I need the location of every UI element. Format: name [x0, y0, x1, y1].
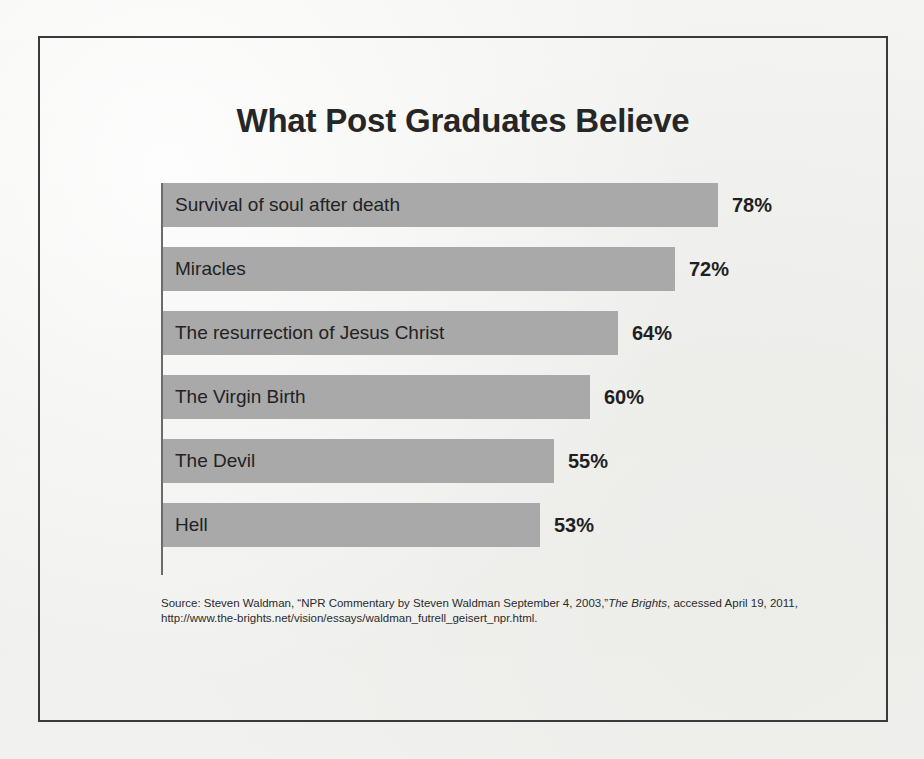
bar-value-label: 64% — [632, 311, 672, 355]
source-publication-title: The Brights — [608, 597, 667, 609]
bar-row: The Devil55% — [163, 439, 803, 483]
bar-value-label: 72% — [689, 247, 729, 291]
bar-category-label: Survival of soul after death — [175, 183, 400, 227]
slide-frame: What Post Graduates Believe Survival of … — [38, 36, 888, 722]
bar-category-label: Hell — [175, 503, 208, 547]
bar-row: Survival of soul after death78% — [163, 183, 803, 227]
bar-category-label: The resurrection of Jesus Christ — [175, 311, 444, 355]
source-line1-pre: Source: Steven Waldman, “NPR Commentary … — [161, 597, 608, 609]
page-title: What Post Graduates Believe — [40, 102, 886, 140]
bar-category-label: Miracles — [175, 247, 246, 291]
source-citation: Source: Steven Waldman, “NPR Commentary … — [161, 596, 821, 626]
bar-category-label: The Virgin Birth — [175, 375, 306, 419]
bar-value-label: 55% — [568, 439, 608, 483]
bar-row: The resurrection of Jesus Christ64% — [163, 311, 803, 355]
bar-rect — [163, 503, 540, 547]
bar-row: Miracles72% — [163, 247, 803, 291]
source-line1-post: , — [667, 597, 670, 609]
bar-chart: Survival of soul after death78%Miracles7… — [161, 183, 801, 575]
bar-row: The Virgin Birth60% — [163, 375, 803, 419]
bar-value-label: 60% — [604, 375, 644, 419]
bar-value-label: 53% — [554, 503, 594, 547]
bar-value-label: 78% — [732, 183, 772, 227]
bar-category-label: The Devil — [175, 439, 255, 483]
bar-row: Hell53% — [163, 503, 803, 547]
